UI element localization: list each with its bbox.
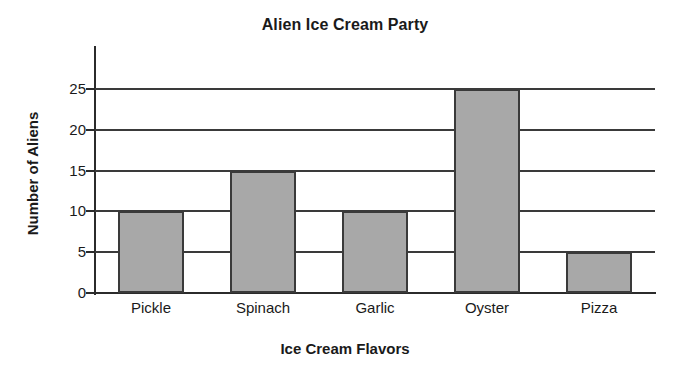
x-axis-category-label: Oyster (431, 300, 543, 315)
gridline (95, 170, 655, 172)
y-axis-tick (86, 251, 94, 253)
chart-title: Alien Ice Cream Party (0, 16, 690, 34)
y-axis-tick-label: 0 (46, 285, 86, 300)
x-axis-category-label: Pickle (95, 300, 207, 315)
y-axis-tick (86, 170, 94, 172)
y-axis-tick-label: 10 (46, 203, 86, 218)
bar-chart-figure: Alien Ice Cream Party Number of Aliens 0… (0, 0, 690, 374)
y-axis-title: Number of Aliens (24, 74, 41, 274)
gridline (95, 88, 655, 90)
y-axis-tick-label: 25 (46, 81, 86, 96)
y-axis-tick (86, 210, 94, 212)
bar (230, 171, 296, 293)
y-axis-tick (86, 292, 94, 294)
y-axis-tick-label: 20 (46, 122, 86, 137)
y-axis-tick-labels: 0510152025 (40, 0, 86, 374)
bar (566, 252, 632, 293)
y-axis-tick-label: 15 (46, 163, 86, 178)
gridline (95, 129, 655, 131)
x-axis-category-label: Spinach (207, 300, 319, 315)
bar (118, 211, 184, 293)
bar (454, 89, 520, 293)
y-axis-tick-label: 5 (46, 244, 86, 259)
x-axis-category-label: Pizza (543, 300, 655, 315)
y-axis-tick (86, 88, 94, 90)
x-axis-category-label: Garlic (319, 300, 431, 315)
x-axis-title: Ice Cream Flavors (0, 340, 690, 357)
bar (342, 211, 408, 293)
plot-area (95, 89, 655, 293)
y-axis-tick (86, 129, 94, 131)
